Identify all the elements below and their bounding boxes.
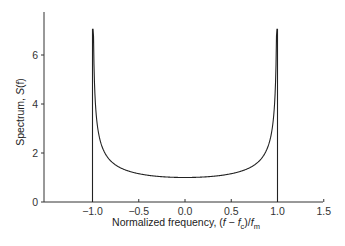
axes: [44, 12, 323, 202]
spectrum-curve: [93, 29, 278, 202]
x-tick-label: 1.5: [316, 205, 331, 217]
y-tick-label: 2: [32, 147, 38, 159]
plot-area: [93, 29, 278, 202]
y-tick-label: 6: [32, 49, 38, 61]
y-tick-label: 4: [32, 98, 38, 110]
x-tick-label: −1.0: [82, 205, 103, 217]
spectrum-chart: −1.0−0.50.00.51.01.5 0246 Normalized fre…: [0, 0, 345, 246]
y-tick-label: 0: [32, 196, 38, 208]
y-axis-title: Spectrum, S(f): [14, 78, 26, 146]
x-axis-title: Normalized frequency, (f − fc)/fm: [112, 216, 260, 231]
y-ticks: 0246: [32, 49, 44, 208]
x-tick-label: 1.0: [270, 205, 285, 217]
